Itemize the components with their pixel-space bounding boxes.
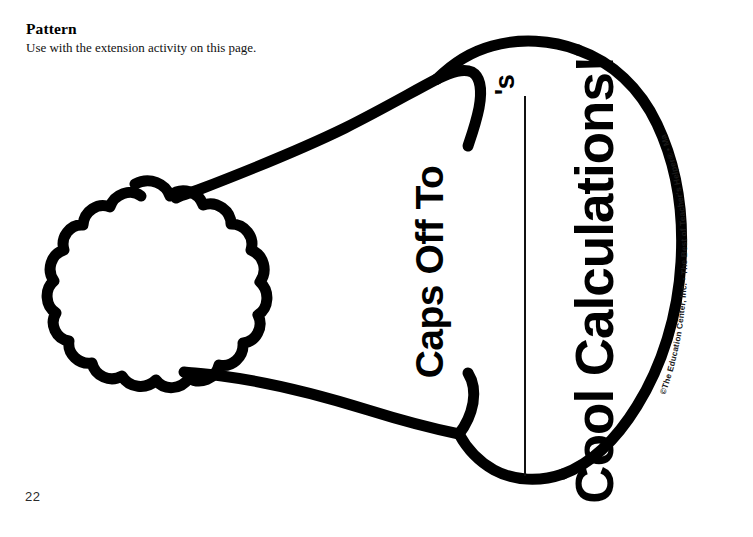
- cap-outline-svg: [0, 0, 753, 537]
- name-blank-suffix: 's: [490, 75, 521, 95]
- cap-body: [176, 41, 578, 198]
- pom-pom: [47, 181, 267, 388]
- page-title: Pattern: [26, 20, 446, 38]
- header: Pattern Use with the extension activity …: [26, 20, 446, 55]
- page-number: 22: [25, 489, 40, 504]
- cap-illustration: [0, 0, 753, 537]
- worksheet-page: Pattern Use with the extension activity …: [0, 0, 753, 537]
- caption-caps-off-to: Caps Off To: [408, 166, 452, 379]
- name-write-on-line[interactable]: [524, 96, 526, 476]
- credit-line-svg: ©The Education Center, Inc. • The Best o…: [0, 0, 753, 537]
- page-subtitle: Use with the extension activity on this …: [26, 40, 446, 56]
- cap-bottom-edge: [184, 372, 563, 479]
- caption-cool-calculations: Cool Calculations!: [564, 56, 625, 503]
